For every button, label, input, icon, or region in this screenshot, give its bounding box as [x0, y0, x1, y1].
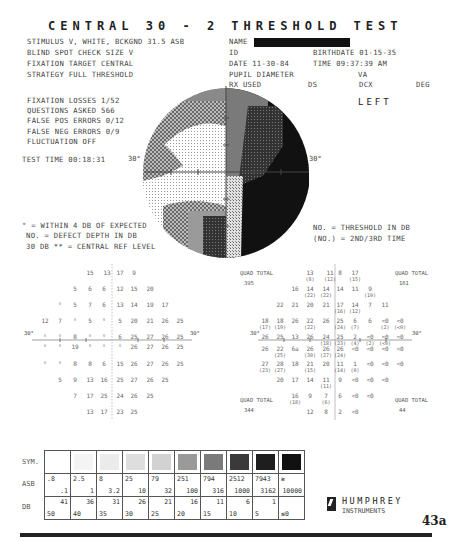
value: 25 — [276, 333, 283, 340]
db-lower: 35 — [99, 510, 107, 518]
value: <0 — [366, 345, 373, 352]
grid-value: <0 — [378, 377, 392, 383]
value: 11 — [381, 301, 388, 308]
grid-value: 26 — [303, 334, 317, 340]
sym-swatch — [149, 451, 175, 474]
db-cell: 1115 — [201, 497, 227, 520]
value: <0 — [351, 376, 358, 383]
asb-cell: .8.1 — [45, 474, 71, 497]
asb-upper: 794 — [203, 475, 215, 483]
asb-lower: 3.2 — [108, 487, 120, 495]
retest-value: (23) — [258, 367, 272, 373]
retest-value: (15) — [303, 367, 317, 373]
asb-cell: 79433162 — [253, 474, 279, 497]
value: 20 — [306, 301, 313, 308]
value: 13 — [306, 269, 313, 276]
asb-upper: ≥ — [281, 475, 285, 483]
value: <0 — [351, 392, 358, 399]
grid-value: <0 — [348, 377, 362, 383]
value: <0 — [351, 408, 358, 415]
value: 27 — [261, 360, 268, 367]
retest-value: (11) — [319, 383, 333, 389]
quad-total-label: QUAD TOTAL — [240, 270, 273, 276]
grid-value: 9 — [333, 377, 347, 383]
value: 26 — [336, 345, 343, 352]
asb-lower: 316 — [212, 487, 224, 495]
asb-upper: 8 — [99, 475, 103, 483]
db-lower: 40 — [73, 510, 81, 518]
value: 26 — [291, 317, 298, 324]
retest-value: (22) — [303, 292, 317, 298]
retest-value: (10) — [363, 292, 377, 298]
brand-name: HUMPHREY — [342, 496, 403, 506]
value: 24 — [322, 333, 329, 340]
asb-lower: 10 — [138, 487, 146, 495]
value: 14 — [336, 285, 343, 292]
retest-value: (27) — [273, 367, 287, 373]
value: 6 — [353, 317, 357, 324]
grid-value: 9(10) — [363, 286, 377, 298]
grid-value: 13 — [288, 334, 302, 340]
retest-value: (<0) — [393, 324, 407, 330]
grid-value: 16(18) — [288, 393, 302, 405]
grid-value: 9 — [303, 393, 317, 399]
retest-value: (12) — [348, 308, 362, 314]
grid-value: 26(27) — [319, 346, 333, 358]
db-upper: 16 — [190, 498, 198, 506]
grid-value: 16 — [288, 286, 302, 292]
asb-upper: 2512 — [229, 475, 245, 483]
quad-total-label: QUAD TOTAL — [395, 397, 428, 403]
grid-value: <0 — [348, 409, 362, 415]
grid-value: 26(24) — [333, 346, 347, 358]
value: 7 — [368, 301, 372, 308]
retest-value: (22) — [319, 292, 333, 298]
gray-swatch — [100, 454, 119, 470]
db-row: 415036403135263021251620111561015≤0 — [45, 497, 305, 520]
value: 20 — [322, 360, 329, 367]
grid-value: 20 — [319, 361, 333, 367]
grid-value: 20 — [273, 377, 287, 383]
grid-value: 21(15) — [303, 361, 317, 373]
db-lower: 25 — [151, 510, 159, 518]
grid-value: 18(19) — [273, 318, 287, 330]
value: 26 — [261, 345, 268, 352]
value: <0 — [366, 360, 373, 367]
grid-value: 22(25) — [273, 346, 287, 358]
asb-lower: 1 — [90, 487, 94, 495]
grid-value: 11 — [348, 286, 362, 292]
retest-value: (14) — [333, 367, 347, 373]
threshold-grid: 13(8)11(12)817(15)1614(22)14(22)14119(10… — [0, 0, 452, 430]
asb-lower: 10000 — [282, 487, 302, 495]
sym-swatch — [71, 451, 97, 474]
grid-value: 18 — [288, 361, 302, 367]
value: 6a — [291, 345, 298, 352]
value: 6 — [368, 317, 372, 324]
grid-value: 7(6) — [319, 393, 333, 405]
value: 20 — [276, 376, 283, 383]
grid-value: 1(0) — [348, 361, 362, 373]
gray-swatch — [74, 454, 93, 470]
db-cell: ≤0 — [279, 497, 305, 520]
grid-value: 26 — [258, 334, 272, 340]
asb-row: .8.12.5183.22510793225110079431625121000… — [45, 474, 305, 497]
retest-value: (22) — [303, 324, 317, 330]
retest-value: (12) — [323, 276, 337, 282]
value: <0 — [396, 345, 403, 352]
quad-total-value: 44 — [399, 407, 406, 413]
value: 26 — [261, 333, 268, 340]
grid-value: 17 — [288, 377, 302, 383]
gray-swatch — [204, 454, 223, 470]
grid-value: <0(2) — [378, 318, 392, 330]
retest-value: (19) — [273, 324, 287, 330]
value: 21 — [306, 360, 313, 367]
value: 9 — [308, 392, 312, 399]
value: 14 — [306, 376, 313, 383]
grid-value: 26 — [288, 318, 302, 324]
grid-value: 14(22) — [319, 286, 333, 298]
value: 17 — [336, 301, 343, 308]
humphrey-logo-icon — [327, 497, 336, 511]
value: <0 — [396, 360, 403, 367]
grid-value: 25 — [273, 334, 287, 340]
value: 21 — [322, 301, 329, 308]
value: <0 — [381, 376, 388, 383]
